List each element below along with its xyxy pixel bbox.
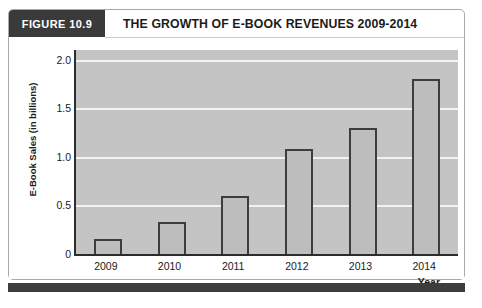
figure-card: FIGURE 10.9 THE GROWTH OF E-BOOK REVENUE… — [8, 9, 465, 280]
figure-footer-strip — [8, 283, 465, 292]
plot-area — [74, 50, 458, 256]
x-tick-label: 2010 — [138, 260, 202, 272]
figure-title: THE GROWTH OF E-BOOK REVENUES 2009-2014 — [105, 10, 464, 37]
bar-slot — [331, 50, 395, 254]
bar-slot — [394, 50, 458, 254]
x-tick-label: 2013 — [329, 260, 393, 272]
x-tick-label: 2011 — [201, 260, 265, 272]
bar-slot — [203, 50, 267, 254]
figure-header: FIGURE 10.9 THE GROWTH OF E-BOOK REVENUE… — [9, 10, 464, 37]
bar-2012 — [285, 149, 313, 254]
chart-area: E-Book Sales (in billions) 00.51.01.52.0… — [9, 38, 464, 279]
y-axis-ticks: 00.51.01.52.0 — [35, 38, 71, 279]
x-tick-label: 2012 — [265, 260, 329, 272]
plot-inner — [76, 50, 458, 254]
y-tick-label: 1.0 — [37, 151, 71, 163]
bar-slot — [267, 50, 331, 254]
x-axis-ticks: 200920102011201220132014 — [74, 260, 456, 272]
figure-number-badge: FIGURE 10.9 — [9, 10, 105, 37]
bar-series — [76, 50, 458, 254]
y-tick-label: 1.5 — [37, 102, 71, 114]
x-tick-label: 2009 — [74, 260, 138, 272]
bar-2013 — [349, 128, 377, 254]
y-tick-label: 2.0 — [37, 54, 71, 66]
y-tick-label: 0 — [37, 248, 71, 260]
bar-2011 — [221, 196, 249, 254]
bar-slot — [140, 50, 204, 254]
x-tick-label: 2014 — [392, 260, 456, 272]
y-tick-label: 0.5 — [37, 199, 71, 211]
bar-2010 — [158, 222, 186, 254]
bar-2014 — [412, 79, 440, 254]
bar-slot — [76, 50, 140, 254]
caption-text-sliver — [10, 300, 465, 308]
bar-2009 — [94, 239, 122, 254]
